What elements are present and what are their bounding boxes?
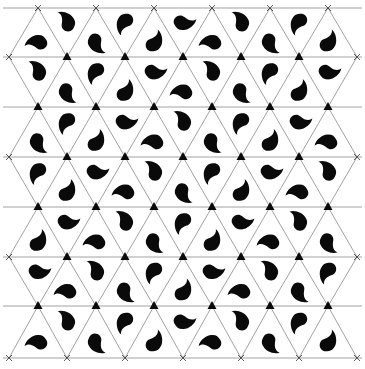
paisley-icon <box>320 29 337 51</box>
paisley-icon <box>312 158 339 183</box>
paisley-icon <box>291 79 308 101</box>
grid-line-diagonal <box>38 57 67 107</box>
paisley-icon <box>51 280 78 305</box>
paisley-icon <box>287 108 314 133</box>
paisley-icon <box>59 113 76 135</box>
triangle-marker-icon <box>34 102 43 110</box>
paisley-icon <box>258 31 285 56</box>
grid-line-diagonal <box>299 207 328 257</box>
tessellation-artwork <box>0 0 365 369</box>
triangle-marker-icon <box>121 252 130 260</box>
paisley-icon <box>287 280 314 305</box>
grid-line-diagonal <box>67 8 96 57</box>
grid-line-diagonal <box>38 257 67 306</box>
paisley-icon <box>88 129 105 151</box>
paisley-icon <box>262 63 279 85</box>
grid-line-diagonal <box>241 8 270 57</box>
grid-line-diagonal <box>241 207 270 257</box>
grid-line-diagonal <box>328 107 357 157</box>
triangle-marker-icon <box>237 52 246 60</box>
paisley-icon <box>26 258 53 283</box>
triangle-marker-icon <box>121 152 130 160</box>
paisley-icon <box>55 208 82 233</box>
paisley-icon <box>167 81 194 106</box>
paisley-icon <box>233 179 250 201</box>
paisley-icon <box>312 131 339 156</box>
paisley-icon <box>196 58 223 83</box>
paisley-icon <box>138 158 165 183</box>
paisley-icon <box>283 181 310 206</box>
paisley-icon <box>30 229 47 251</box>
triangle-marker-icon <box>295 252 304 260</box>
grid-line-diagonal <box>212 257 241 306</box>
paisley-icon <box>80 231 107 256</box>
grid-line-diagonal <box>299 107 328 157</box>
paisley-icon <box>225 308 252 333</box>
triangle-marker-icon <box>237 152 246 160</box>
grid-line-diagonal <box>241 306 270 358</box>
grid-line-diagonal <box>328 157 357 207</box>
paisley-icon <box>146 29 163 51</box>
triangle-marker-icon <box>150 301 159 309</box>
triangle-marker-icon <box>179 52 188 60</box>
paisley-icon <box>117 313 134 335</box>
paisley-icon <box>254 258 281 283</box>
paisley-icon <box>283 208 310 233</box>
paisley-icon <box>233 113 250 135</box>
paisley-icon <box>22 331 49 356</box>
paisley-icon <box>204 163 221 185</box>
grid-line-diagonal <box>67 207 96 257</box>
triangle-marker-icon <box>266 102 275 110</box>
grid-line-diagonal <box>154 57 183 107</box>
triangle-marker-icon <box>63 252 72 260</box>
paisley-icon <box>84 331 111 356</box>
paisley-icon <box>225 9 252 34</box>
paisley-icon <box>113 280 140 305</box>
paisley-icon <box>51 308 78 333</box>
paisley-icon <box>84 158 111 183</box>
triangle-marker-icon <box>179 152 188 160</box>
grid-line-diagonal <box>96 257 125 306</box>
paisley-icon <box>316 58 343 83</box>
paisley-icon <box>146 263 163 285</box>
grid-line-diagonal <box>270 157 299 207</box>
triangle-marker-icon <box>179 252 188 260</box>
triangle-marker-icon <box>63 152 72 160</box>
paisley-icon <box>175 278 192 300</box>
triangle-marker-icon <box>150 202 159 210</box>
triangle-marker-icon <box>208 102 217 110</box>
grid-line-diagonal <box>9 257 38 306</box>
paisley-icon <box>109 181 136 206</box>
paisley-icon <box>113 108 140 133</box>
paisley-icon <box>291 14 308 36</box>
triangle-marker-icon <box>208 202 217 210</box>
triangle-marker-icon <box>34 301 43 309</box>
paisley-icon <box>84 31 111 56</box>
paisley-tessellation <box>0 0 365 369</box>
grid-line-diagonal <box>9 107 38 157</box>
paisley-icon <box>196 31 223 56</box>
grid-line-diagonal <box>9 8 38 57</box>
triangle-marker-icon <box>237 252 246 260</box>
paisley-icon <box>254 231 281 256</box>
triangle-marker-icon <box>324 102 333 110</box>
grid-line-diagonal <box>183 107 212 157</box>
triangle-marker-icon <box>150 102 159 110</box>
triangle-marker-icon <box>92 301 101 309</box>
triangle-marker-icon <box>34 202 43 210</box>
grid-line-diagonal <box>212 57 241 107</box>
paisley-icon <box>175 213 192 235</box>
paisley-icon <box>167 108 194 133</box>
paisley-icon <box>59 179 76 201</box>
triangle-marker-icon <box>295 152 304 160</box>
triangle-marker-icon <box>92 102 101 110</box>
triangle-marker-icon <box>295 52 304 60</box>
paisley-icon <box>80 258 107 283</box>
paisley-icon <box>291 313 308 335</box>
grid-line-diagonal <box>9 306 38 358</box>
grid-line-diagonal <box>125 107 154 157</box>
grid-line-diagonal <box>125 207 154 257</box>
triangle-marker-icon <box>324 301 333 309</box>
grid-line-diagonal <box>270 257 299 306</box>
grid-line-diagonal <box>328 57 357 107</box>
